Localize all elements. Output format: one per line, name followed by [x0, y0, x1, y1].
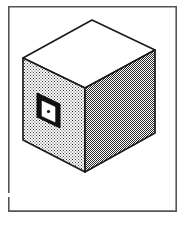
- figure-root: Isometric cube with shaded faces and ape…: [0, 0, 184, 225]
- aperture-center-dot: [47, 110, 50, 113]
- isometric-cube-figure: [0, 0, 184, 225]
- isometric-cube: [23, 20, 155, 172]
